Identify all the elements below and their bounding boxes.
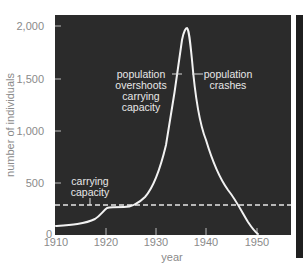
x-tick-label: 1920 [94, 236, 118, 248]
x-tick-label: 1950 [245, 236, 269, 248]
svg-text:crashes: crashes [210, 79, 247, 91]
adjacent-panel-edge [296, 15, 303, 258]
y-tick-label: 500 [26, 177, 44, 189]
y-tick-label: 2,000 [16, 20, 44, 32]
svg-text:capacity: capacity [122, 101, 161, 113]
x-axis-title: year [161, 251, 183, 263]
svg-text:capacity: capacity [71, 186, 110, 198]
y-axis: 2,000 1,500 1,000 500 0 [16, 20, 61, 240]
y-axis-title: number of individuals [4, 73, 16, 177]
y-tick-label: 1,000 [16, 125, 44, 137]
x-tick-label: 1940 [194, 236, 218, 248]
population-chart: number of individuals 2,000 1,500 1,000 … [0, 0, 303, 278]
x-tick-label: 1910 [44, 236, 68, 248]
x-tick-label: 1930 [144, 236, 168, 248]
y-tick-label: 1,500 [16, 73, 44, 85]
